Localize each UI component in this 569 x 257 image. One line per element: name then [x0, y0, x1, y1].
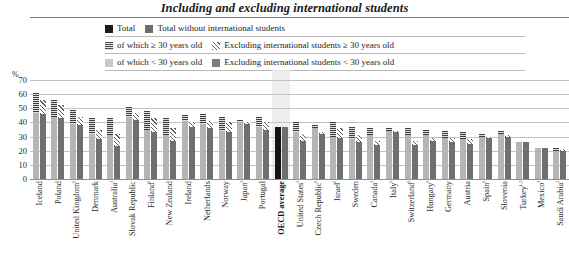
bar-total[interactable]	[423, 130, 429, 179]
bar-total-without-international[interactable]	[560, 149, 566, 179]
bar-total[interactable]	[33, 93, 39, 179]
x-tick-label: United Kingdom¹	[67, 181, 86, 257]
legend-row-1: Total Total without international studen…	[105, 20, 525, 37]
bar-group[interactable]	[272, 80, 291, 179]
bar-total[interactable]	[275, 127, 281, 179]
legend-total-without-international[interactable]: Total without international students	[145, 24, 285, 33]
bar-group[interactable]	[402, 80, 421, 179]
y-tick-label-50: 50	[5, 104, 27, 112]
bar-total-without-international[interactable]	[96, 130, 102, 179]
bar-group[interactable]	[49, 80, 68, 179]
bar-group[interactable]	[216, 80, 235, 179]
bar-group[interactable]	[253, 80, 272, 179]
bar-total-without-international[interactable]	[430, 138, 436, 179]
bar-total-without-international[interactable]	[40, 100, 46, 179]
bar-total[interactable]	[144, 111, 150, 179]
bar-total[interactable]	[405, 128, 411, 179]
segment-lt30	[200, 124, 206, 179]
bar-total-without-international[interactable]	[486, 137, 492, 179]
bar-group[interactable]	[328, 80, 347, 179]
bar-total[interactable]	[460, 132, 466, 179]
bar-group[interactable]	[365, 80, 384, 179]
bar-group[interactable]	[551, 80, 569, 179]
bar-total-without-international[interactable]	[412, 141, 418, 179]
bar-total[interactable]	[163, 118, 169, 179]
bar-group[interactable]	[142, 80, 161, 179]
bar-total[interactable]	[182, 115, 188, 179]
bar-total-without-international[interactable]	[356, 135, 362, 179]
bar-total[interactable]	[237, 120, 243, 179]
bar-total[interactable]	[256, 117, 262, 179]
bar-total[interactable]	[126, 107, 132, 179]
bar-total[interactable]	[479, 134, 485, 179]
bar-total[interactable]	[553, 148, 559, 179]
legend-of-which-ge30[interactable]: of which ≥ 30 years old	[105, 41, 202, 50]
bar-group[interactable]	[123, 80, 142, 179]
legend-excluding-lt30[interactable]: Excluding international students < 30 ye…	[212, 58, 394, 67]
bar-total-without-international[interactable]	[523, 142, 529, 179]
bar-group[interactable]	[86, 80, 105, 179]
bar-total[interactable]	[219, 117, 225, 179]
bar-total-without-international[interactable]	[300, 134, 306, 179]
bar-group[interactable]	[67, 80, 86, 179]
bar-total-without-international[interactable]	[542, 148, 548, 179]
bar-group[interactable]	[290, 80, 309, 179]
bar-total[interactable]	[442, 131, 448, 179]
bar-total[interactable]	[312, 125, 318, 179]
bar-total-without-international[interactable]	[374, 141, 380, 179]
bar-total-without-international[interactable]	[170, 128, 176, 179]
bar-group[interactable]	[420, 80, 439, 179]
bar-total[interactable]	[89, 118, 95, 179]
bar-total[interactable]	[200, 114, 206, 179]
bar-group[interactable]	[104, 80, 123, 179]
bar-group[interactable]	[235, 80, 254, 179]
bar-group[interactable]	[383, 80, 402, 179]
bar-total-without-international[interactable]	[114, 134, 120, 179]
bar-group[interactable]	[30, 80, 49, 179]
bar-total[interactable]	[70, 110, 76, 179]
bar-group[interactable]	[160, 80, 179, 179]
bar-total-without-international[interactable]	[263, 122, 269, 179]
bar-total-without-international[interactable]	[226, 122, 232, 179]
bar-total-without-international[interactable]	[207, 121, 213, 179]
bar-total-without-international[interactable]	[449, 138, 455, 179]
legend-excluding-ge30[interactable]: Excluding international students ≥ 30 ye…	[212, 41, 394, 50]
bar-group[interactable]	[513, 80, 532, 179]
bar-total[interactable]	[349, 127, 355, 179]
bar-group[interactable]	[439, 80, 458, 179]
bar-total-without-international[interactable]	[505, 135, 511, 179]
bar-total-without-international[interactable]	[244, 122, 250, 179]
bar-group[interactable]	[495, 80, 514, 179]
gridline-0	[30, 179, 569, 180]
bar-total[interactable]	[51, 100, 57, 179]
bar-group[interactable]	[532, 80, 551, 179]
legend-of-which-lt30[interactable]: of which < 30 years old	[105, 58, 202, 67]
bar-total-without-international[interactable]	[189, 122, 195, 179]
bar-total-without-international[interactable]	[133, 113, 139, 179]
bar-total[interactable]	[330, 122, 336, 179]
bar-group[interactable]	[476, 80, 495, 179]
bar-total[interactable]	[293, 122, 299, 179]
bar-total-without-international[interactable]	[58, 105, 64, 179]
bar-total[interactable]	[386, 128, 392, 179]
legend-total[interactable]: Total	[105, 24, 135, 33]
bar-total[interactable]	[535, 148, 541, 179]
bar-total-without-international[interactable]	[319, 132, 325, 179]
bar-total-without-international[interactable]	[393, 131, 399, 179]
bar-total-without-international[interactable]	[151, 118, 157, 179]
bar-total[interactable]	[367, 128, 373, 179]
x-tick-label: Netherlands	[197, 181, 216, 257]
bar-group[interactable]	[179, 80, 198, 179]
bar-total-without-international[interactable]	[337, 128, 343, 179]
bar-total[interactable]	[516, 142, 522, 179]
legend-divider-3	[105, 70, 525, 71]
bar-total[interactable]	[498, 131, 504, 179]
bar-total-without-international[interactable]	[467, 139, 473, 179]
bar-group[interactable]	[458, 80, 477, 179]
bar-group[interactable]	[197, 80, 216, 179]
bar-total-without-international[interactable]	[77, 117, 83, 179]
bar-group[interactable]	[309, 80, 328, 179]
bar-group[interactable]	[346, 80, 365, 179]
bar-total[interactable]	[107, 118, 113, 179]
bar-total-without-international[interactable]	[282, 127, 288, 179]
